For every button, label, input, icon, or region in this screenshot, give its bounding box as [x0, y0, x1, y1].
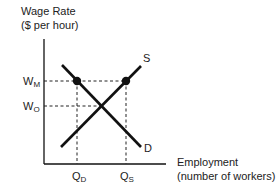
- qd-label: QD: [72, 170, 87, 184]
- x-axis-title-line2: (number of workers): [177, 170, 275, 182]
- point-qd-wm: [73, 77, 81, 85]
- demand-label: D: [144, 142, 152, 154]
- point-qs-wm: [122, 77, 130, 85]
- y-axis-title-line2: ($ per hour): [21, 19, 78, 31]
- wo-label: WO: [23, 100, 40, 114]
- y-axis-title-line1: Wage Rate: [21, 5, 76, 17]
- x-axis-title-line1: Employment: [177, 156, 238, 168]
- wm-label: WM: [23, 75, 40, 89]
- supply-label: S: [143, 52, 150, 64]
- qs-label: QS: [120, 170, 134, 184]
- labor-market-diagram: Wage Rate ($ per hour) Employment (numbe…: [0, 0, 278, 191]
